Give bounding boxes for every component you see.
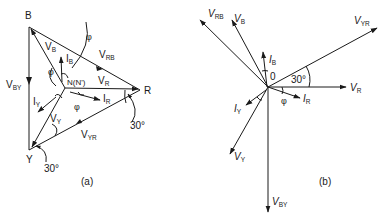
caption-b: (b)	[319, 176, 331, 187]
label-a-V_R: VR	[98, 75, 110, 87]
vertex-R-label: R	[144, 85, 151, 96]
label-a-I_B: IB	[66, 53, 73, 65]
arrow-V_BY	[26, 77, 32, 85]
phi-a-left: φ	[48, 67, 54, 77]
phasor-b-V_Y	[230, 87, 268, 154]
phasor-I_B	[61, 57, 62, 82]
label-b-I_Y: IY	[234, 103, 242, 115]
phasor-I_R	[70, 92, 100, 100]
phi-b: φ	[281, 96, 287, 106]
label-b-V_Y: VY	[234, 151, 246, 163]
phasor-b-V_YR	[268, 28, 377, 87]
phasor-diagram: B R Y N(N') VRB VBY VYR VB VR VY IB IR I…	[0, 0, 389, 217]
phasor-V_R	[65, 88, 138, 89]
origin-label: 0	[270, 71, 276, 82]
vertex-N-label: N(N')	[67, 78, 86, 87]
phasor-b-I_Y	[246, 90, 266, 105]
vertex-B-label: B	[25, 10, 32, 21]
label-a-I_Y: IY	[33, 96, 41, 108]
figure-b: 0 VRB VB VYR VR VY VBY IB IR IY φ 30° (b…	[200, 8, 377, 212]
label-b-I_B: IB	[269, 54, 276, 66]
phi-a-top: φ	[86, 32, 92, 42]
angle-a-R: 30°	[130, 120, 145, 131]
angle-a-Y: 30°	[44, 163, 59, 174]
label-b-V_R: VR	[350, 82, 362, 94]
figure-a: B R Y N(N') VRB VBY VYR VB VR VY IB IR I…	[6, 10, 151, 187]
side-Y-R	[29, 90, 140, 150]
label-b-V_YR: VYR	[354, 15, 370, 27]
phasor-b-V_RB	[200, 20, 268, 87]
vertex-Y-label: Y	[26, 154, 33, 165]
label-a-V_B: VB	[45, 41, 56, 53]
label-a-V_Y: VY	[50, 113, 62, 125]
caption-a: (a)	[81, 176, 93, 187]
arrow-V_YR	[76, 119, 82, 124]
label-b-V_RB: VRB	[208, 8, 224, 20]
angle-b-30: 30°	[291, 74, 306, 85]
label-a-V_YR: VYR	[81, 129, 97, 141]
label-a-I_R: IR	[103, 93, 111, 105]
phasor-b-V_B	[232, 20, 268, 87]
label-b-V_BY: VBY	[272, 196, 288, 208]
label-b-V_B: VB	[234, 13, 245, 25]
label-a-V_BY: VBY	[6, 79, 22, 91]
phi-a-bottom: φ	[74, 102, 80, 112]
label-a-V_RB: VRB	[99, 49, 115, 61]
label-b-I_R: IR	[303, 93, 311, 105]
